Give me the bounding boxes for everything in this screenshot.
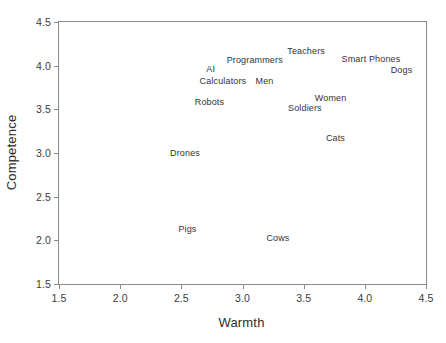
y-axis-title-text: Competence <box>5 114 20 190</box>
data-point-label: Teachers <box>287 46 325 55</box>
x-axis-tick-label: 2.5 <box>174 292 189 304</box>
scatter-plot-figure: Competence 1.52.02.53.03.54.04.5 1.52.02… <box>0 0 446 343</box>
y-axis-tick-label: 3.5 <box>36 103 51 115</box>
x-axis-tick-label: 3.0 <box>235 292 250 304</box>
y-axis-tick-label: 2.0 <box>36 234 51 246</box>
y-axis-tick-label: 4.5 <box>36 16 51 28</box>
data-point-label: Soldiers <box>288 103 322 112</box>
data-point-label: Dogs <box>391 66 413 75</box>
x-axis-tick <box>59 284 60 289</box>
plot-area: 1.52.02.53.03.54.04.5 1.52.02.53.03.54.0… <box>58 21 427 285</box>
y-axis-tick <box>54 240 59 241</box>
x-axis-tick-label: 4.5 <box>419 292 434 304</box>
y-axis-tick-label: 1.5 <box>36 278 51 290</box>
data-point-label: Pigs <box>178 224 196 233</box>
x-axis-tick <box>243 284 244 289</box>
x-axis-tick-label: 4.0 <box>357 292 372 304</box>
x-axis-tick <box>426 284 427 289</box>
y-axis-tick-label: 2.5 <box>36 191 51 203</box>
x-axis-tick-label: 1.5 <box>52 292 67 304</box>
y-axis-tick <box>54 109 59 110</box>
data-point-label: Robots <box>195 98 224 107</box>
x-axis-tick <box>365 284 366 289</box>
y-axis-tick <box>54 66 59 67</box>
data-point-label: Men <box>256 77 274 86</box>
data-point-label: Calculators <box>200 77 247 86</box>
x-axis-tick-label: 3.5 <box>296 292 311 304</box>
data-point-label: Programmers <box>227 56 283 65</box>
y-axis-tick-label: 3.0 <box>36 147 51 159</box>
y-axis-tick <box>54 197 59 198</box>
y-axis-title: Competence <box>4 21 20 283</box>
x-axis-title: Warmth <box>58 315 425 330</box>
data-point-label: Cats <box>326 134 345 143</box>
x-axis-tick <box>181 284 182 289</box>
data-point-label: AI <box>206 65 215 74</box>
data-point-label: Drones <box>170 149 200 158</box>
y-axis-tick <box>54 153 59 154</box>
x-axis-tick-label: 2.0 <box>113 292 128 304</box>
data-point-label: Cows <box>266 233 289 242</box>
y-axis-tick <box>54 22 59 23</box>
x-axis-tick <box>120 284 121 289</box>
x-axis-tick <box>304 284 305 289</box>
data-point-label: Smart Phones <box>342 54 401 63</box>
y-axis-tick-label: 4.0 <box>36 60 51 72</box>
